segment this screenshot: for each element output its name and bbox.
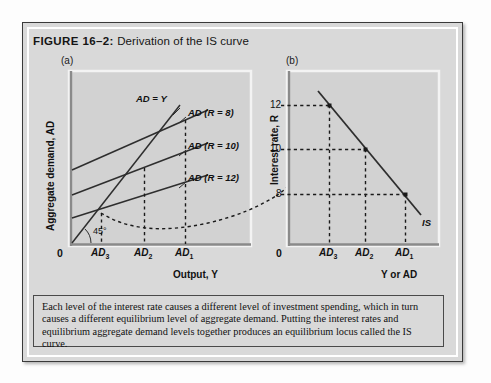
panel-b-plot-background [287,71,439,246]
panel-a-origin-label: 0 [57,247,63,259]
figure-caption-box: Each level of the interest rate causes a… [33,295,444,347]
panel-a-label: (a) [61,55,73,66]
panel-a-curve-label-r10: AD (R = 10) [188,140,239,151]
panel-b-label: (b) [286,55,298,66]
panel-b-ytick-10: 10 [270,143,281,154]
figure-caption-text: Each level of the interest rate causes a… [42,301,435,351]
panel-a-curve-label-r8: AD (R = 8) [188,107,234,118]
panel-a-xtick-ad2: AD2 [134,247,152,260]
panel-b-is-label: IS [422,217,431,228]
panel-a-y-axis-title: Aggregate demand, AD [45,121,56,231]
panel-b-x-axis-title: Y or AD [381,269,417,280]
charts-area: (a) Aggregate demand, AD Output, Y 0 45°… [33,55,444,289]
panel-b-xtick-ad2: AD2 [355,247,373,260]
figure-title-bar: FIGURE 16–2: Derivation of the IS curve [33,31,444,51]
figure-number: FIGURE 16–2: [33,35,114,47]
panel-a-curve-label-r12: AD (R = 12) [188,172,239,183]
panel-a-xtick-ad3: AD3 [91,247,109,260]
panel-a-angle-label: 45° [93,226,107,236]
figure-box: FIGURE 16–2: Derivation of the IS curve [22,22,463,362]
panel-a-x-axis-title: Output, Y [173,269,218,280]
panel-b-origin-label: 0 [276,247,282,259]
panel-b-xtick-ad1: AD1 [395,247,413,260]
panel-b-xtick-ad3: AD3 [319,247,337,260]
figure-title: FIGURE 16–2: Derivation of the IS curve [33,35,249,47]
panel-a-identity-line-label: AD = Y [136,93,167,104]
panel-b-ytick-8: 8 [276,188,282,199]
panel-b-ytick-12: 12 [270,99,281,110]
figure-title-text: Derivation of the IS curve [117,35,249,47]
panel-a-xtick-ad1: AD1 [175,247,193,260]
